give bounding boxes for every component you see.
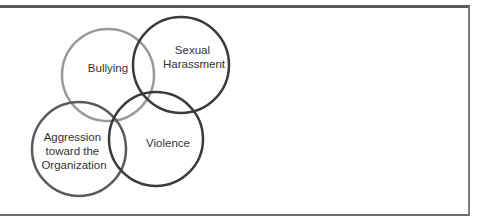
bullying-circle xyxy=(62,29,154,121)
aggression-label: Aggression toward the Organization xyxy=(41,131,106,171)
sexual-harassment-label: Sexual Harassment xyxy=(163,44,226,70)
venn-diagram: Bullying Sexual Harassment Aggression to… xyxy=(0,0,478,223)
bullying-label: Bullying xyxy=(88,62,128,74)
violence-label: Violence xyxy=(146,137,190,149)
